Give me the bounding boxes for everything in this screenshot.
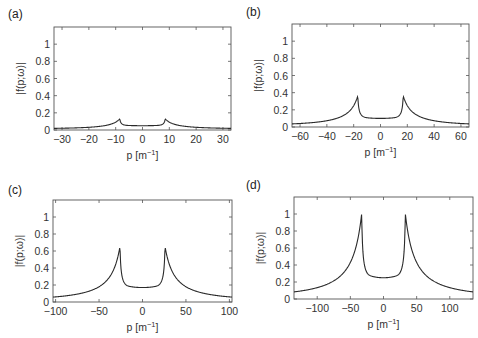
y-tick-label: 0.4 (273, 87, 288, 99)
y-tick-label: 0.6 (273, 70, 288, 82)
x-tick-label: 0 (140, 305, 146, 317)
x-axis-label: p [m−1] (365, 145, 397, 159)
x-tick-label: −10 (107, 133, 125, 145)
axes-frame (294, 197, 473, 299)
y-tick-label: 1 (282, 35, 288, 47)
y-tick-label: 0.8 (34, 228, 49, 240)
panel-d: (d)−100−5005010000.20.40.60.81p [m−1]|f(… (246, 178, 473, 330)
y-tick-label: 0.2 (34, 279, 49, 291)
y-tick-label: 1 (284, 208, 290, 220)
axes-frame (53, 200, 232, 302)
x-tick-label: 50 (411, 302, 423, 314)
data-curve (53, 248, 232, 297)
x-tick-label: 0 (381, 302, 387, 314)
figure: (a)−30−20−10010203000.20.40.60.81p [m−1]… (0, 0, 478, 338)
x-tick-label: 30 (217, 133, 229, 145)
x-tick-label: 0 (378, 130, 384, 142)
y-tick-label: 0 (282, 121, 288, 133)
data-curve (292, 97, 469, 124)
x-tick-label: 100 (441, 302, 459, 314)
y-axis-label: |f(p;ω)| (14, 62, 26, 94)
x-tick-label: −20 (80, 133, 98, 145)
data-curve (294, 214, 473, 291)
x-tick-label: −50 (90, 305, 108, 317)
figure-canvas: (a)−30−20−10010203000.20.40.60.81p [m−1]… (0, 0, 478, 338)
y-tick-label: 0 (44, 124, 50, 136)
panel-a: (a)−30−20−10010203000.20.40.60.81p [m−1]… (8, 7, 231, 161)
y-tick-label: 0.6 (275, 242, 290, 254)
x-tick-label: 100 (221, 305, 239, 317)
y-tick-label: 0.4 (35, 90, 50, 102)
x-tick-label: −100 (305, 302, 329, 314)
axes-frame (292, 24, 469, 127)
axes-frame (54, 27, 231, 130)
panel-b: (b)−60−40−20020406000.20.40.60.81p [m−1]… (246, 5, 469, 158)
data-curve (54, 119, 231, 128)
x-axis-label: p [m−1] (127, 148, 159, 162)
y-tick-label: 0.8 (273, 52, 288, 64)
y-axis-label: |f(p;ω)| (254, 232, 266, 264)
x-tick-label: 50 (180, 305, 192, 317)
x-tick-label: −50 (341, 302, 359, 314)
panel-label: (a) (8, 7, 23, 21)
y-tick-label: 0.8 (275, 225, 290, 237)
y-tick-label: 0.2 (273, 104, 288, 116)
y-axis-label: |f(p;ω)| (13, 235, 25, 267)
x-tick-label: 40 (428, 130, 440, 142)
x-axis-label: p [m−1] (127, 320, 159, 334)
y-tick-label: 0 (43, 296, 49, 308)
panel-label: (d) (246, 178, 261, 192)
x-tick-label: 10 (163, 133, 175, 145)
x-axis-label: p [m−1] (368, 317, 400, 331)
panel-label: (c) (8, 183, 22, 197)
x-tick-label: −30 (53, 133, 71, 145)
y-tick-label: 0.8 (35, 55, 50, 67)
x-tick-label: −20 (345, 130, 363, 142)
x-tick-label: 20 (190, 133, 202, 145)
panel-label: (b) (246, 5, 261, 19)
y-tick-label: 0.2 (275, 276, 290, 288)
y-tick-label: 0.2 (35, 107, 50, 119)
y-tick-label: 0 (284, 293, 290, 305)
y-tick-label: 1 (44, 38, 50, 50)
y-tick-label: 1 (43, 211, 49, 223)
x-tick-label: 20 (401, 130, 413, 142)
y-tick-label: 0.6 (35, 73, 50, 85)
y-axis-label: |f(p;ω)| (252, 59, 264, 91)
x-tick-label: −40 (318, 130, 336, 142)
panel-c: (c)−100−5005010000.20.40.60.81p [m−1]|f(… (8, 183, 238, 333)
y-tick-label: 0.6 (34, 245, 49, 257)
x-tick-label: 60 (455, 130, 467, 142)
y-tick-label: 0.4 (34, 262, 49, 274)
y-tick-label: 0.4 (275, 259, 290, 271)
x-tick-label: −60 (291, 130, 309, 142)
x-tick-label: 0 (140, 133, 146, 145)
